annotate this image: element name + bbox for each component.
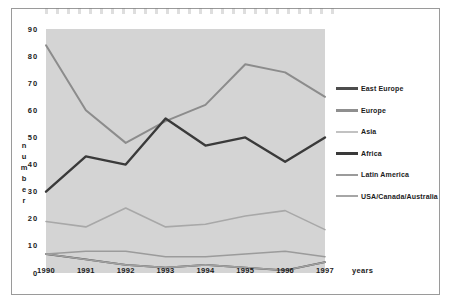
legend-item: East Europe [336,78,438,100]
series-line [46,208,325,230]
legend-item-label: Asia [361,128,376,135]
y-axis-label-letter: m [18,162,30,173]
x-axis-label: years [352,266,373,275]
y-axis-tick-label: 80 [8,52,38,61]
legend-line-swatch [336,131,358,133]
legend-item: USA/Canada/Australia [336,186,438,208]
series-line [46,45,325,143]
x-axis-tick-label: 1994 [185,266,225,275]
y-axis-label-letter: u [18,151,30,162]
series-line [46,118,325,191]
legend-item: Europe [336,100,438,122]
y-axis-tick-label: 70 [8,79,38,88]
legend-item: Asia [336,121,438,143]
legend-item-label: East Europe [361,85,404,92]
legend-item-label: Europe [361,107,386,114]
y-axis-label-letter: r [18,195,30,206]
legend-item: Latin America [336,164,438,186]
legend-line-swatch [336,152,358,156]
x-axis-tick-label: 1997 [305,266,345,275]
x-axis-tick-label: 1990 [26,266,66,275]
x-axis-tick-label: 1996 [265,266,305,275]
legend-item-label: Africa [361,150,382,157]
chart-figure: 0102030405060708090 19901991199219931994… [0,0,451,304]
x-axis-tick-label: 1995 [225,266,265,275]
series-line [46,251,325,256]
legend-item: Africa [336,143,438,165]
x-axis-tick-label: 1992 [106,266,146,275]
y-axis-label-letter: e [18,184,30,195]
legend-item-label: Latin America [361,171,409,178]
legend-item-label: USA/Canada/Australia [361,193,438,200]
y-axis-label: number [18,140,30,206]
x-axis-tick-label: 1991 [66,266,106,275]
legend-line-swatch [336,87,358,90]
legend-line-swatch [336,195,358,197]
y-axis-tick-label: 20 [8,214,38,223]
legend-line-swatch [336,174,358,176]
legend-line-swatch [336,109,358,112]
y-axis-label-letter: b [18,173,30,184]
x-axis-tick-label: 1993 [146,266,186,275]
chart-legend: East EuropeEuropeAsiaAfricaLatin America… [336,78,438,207]
y-axis-tick-label: 60 [8,106,38,115]
y-axis-tick-label: 90 [8,25,38,34]
y-axis-label-letter: n [18,140,30,151]
y-axis-tick-label: 10 [8,241,38,250]
